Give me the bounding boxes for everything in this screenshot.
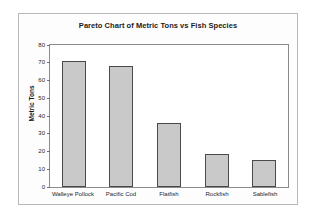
y-axis-title: Metric Tons (28, 81, 35, 127)
y-axis-tick-label: 40 (38, 112, 45, 120)
bar-slot (98, 45, 146, 187)
bar[interactable] (157, 123, 181, 187)
y-axis-tick-label: 30 (38, 129, 45, 137)
x-axis-tick-label: Sablefish (241, 191, 289, 205)
bar[interactable] (205, 154, 229, 187)
x-axis-tick-label: Rockfish (193, 191, 241, 205)
bar-slot (50, 45, 98, 187)
y-axis-tick-label: 80 (38, 41, 45, 49)
y-axis-tick-label: 70 (38, 58, 45, 66)
plot-area: 01020304050607080 (49, 44, 289, 188)
bar-series (50, 45, 288, 187)
y-axis-tick-label: 60 (38, 76, 45, 84)
x-axis-tick-label: Pacific Cod (97, 191, 145, 205)
y-axis-tick-label: 50 (38, 94, 45, 102)
y-axis-tick-label: 20 (38, 147, 45, 155)
bar[interactable] (252, 160, 276, 187)
chart-title: Pareto Chart of Metric Tons vs Fish Spec… (19, 21, 297, 30)
chart-figure: Pareto Chart of Metric Tons vs Fish Spec… (18, 13, 298, 205)
x-axis-tick-label: Flatfish (145, 191, 193, 205)
bar[interactable] (62, 61, 86, 187)
y-axis-tick-label: 10 (38, 165, 45, 173)
y-axis-tick-label: 0 (42, 183, 45, 191)
bar[interactable] (109, 66, 133, 187)
bar-slot (240, 45, 288, 187)
bar-slot (193, 45, 241, 187)
x-axis-tick-label: Walleye Pollock (49, 191, 97, 205)
bar-slot (145, 45, 193, 187)
x-axis-tick-labels: Walleye PollockPacific CodFlatfishRockfi… (49, 191, 289, 205)
